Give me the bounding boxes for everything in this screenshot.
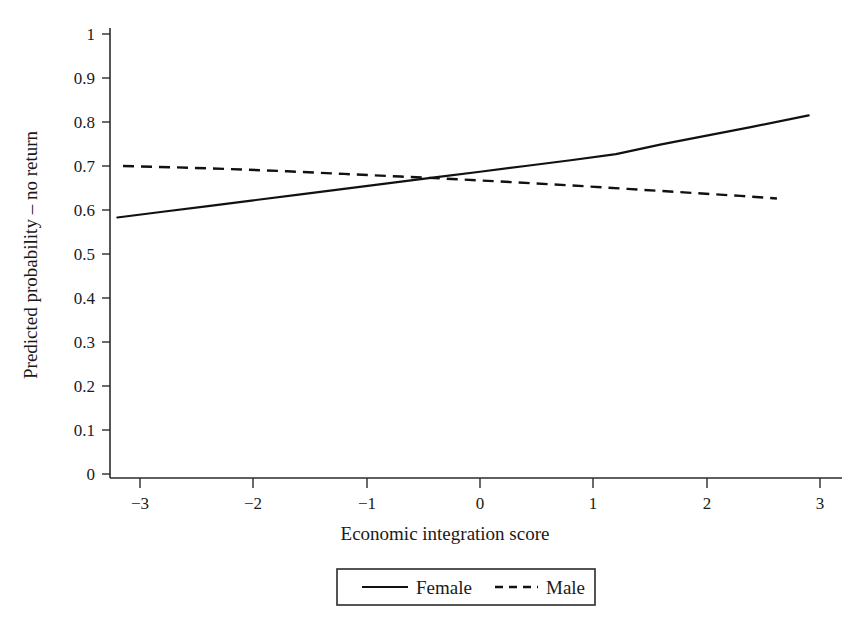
y-tick-label: 0.8 xyxy=(74,113,95,132)
x-tick-3: 3 xyxy=(816,478,825,513)
y-tick-label: 0.3 xyxy=(74,333,95,352)
y-tick-1: 1 xyxy=(87,25,111,44)
x-tick-label: −1 xyxy=(358,494,376,513)
chart-legend: Female Male xyxy=(337,569,595,605)
y-tick-label: 0.2 xyxy=(74,377,95,396)
x-tick-1: 1 xyxy=(589,478,598,513)
x-tick-label: 1 xyxy=(589,494,598,513)
x-tick--3: −3 xyxy=(131,478,149,513)
y-tick-label: 0.7 xyxy=(74,157,96,176)
x-tick--2: −2 xyxy=(244,478,262,513)
x-tick-label: −3 xyxy=(131,494,149,513)
y-tick-label: 0 xyxy=(87,465,96,484)
x-tick-0: 0 xyxy=(476,478,485,513)
y-tick-0.4: 0.4 xyxy=(74,289,110,308)
x-tick-2: 2 xyxy=(703,478,712,513)
x-tick--1: −1 xyxy=(358,478,376,513)
x-tick-label: −2 xyxy=(244,494,262,513)
y-tick-label: 0.4 xyxy=(74,289,96,308)
y-tick-0.6: 0.6 xyxy=(74,201,110,220)
x-axis-title: Economic integration score xyxy=(341,523,550,544)
series-group xyxy=(117,115,808,217)
y-tick-0.5: 0.5 xyxy=(74,245,110,264)
y-axis-title: Predicted probability – no return xyxy=(20,131,41,379)
legend-label-male: Male xyxy=(546,577,585,598)
y-tick-label: 1 xyxy=(87,25,96,44)
y-tick-0.3: 0.3 xyxy=(74,333,110,352)
y-tick-label: 0.1 xyxy=(74,421,95,440)
y-tick-0.1: 0.1 xyxy=(74,421,110,440)
y-tick-0.8: 0.8 xyxy=(74,113,110,132)
legend-label-female: Female xyxy=(416,577,472,598)
chart-canvas: Predicted probability – no return 1 0.9 … xyxy=(0,0,860,635)
series-line-male xyxy=(123,166,777,199)
axes xyxy=(110,28,842,478)
x-tick-label: 2 xyxy=(703,494,712,513)
series-line-female xyxy=(117,115,808,217)
y-tick-0.7: 0.7 xyxy=(74,157,110,176)
x-tick-label: 0 xyxy=(476,494,485,513)
x-axis-ticks: −3 −2 −1 0 1 2 xyxy=(131,478,824,513)
y-tick-label: 0.9 xyxy=(74,69,95,88)
y-tick-label: 0.5 xyxy=(74,245,95,264)
y-tick-0: 0 xyxy=(87,465,111,484)
chart-figure: Predicted probability – no return 1 0.9 … xyxy=(0,0,860,635)
y-tick-0.9: 0.9 xyxy=(74,69,110,88)
y-tick-label: 0.6 xyxy=(74,201,95,220)
y-axis-ticks: 1 0.9 0.8 0.7 0.6 0.5 xyxy=(74,25,110,484)
x-tick-label: 3 xyxy=(816,494,825,513)
y-tick-0.2: 0.2 xyxy=(74,377,110,396)
